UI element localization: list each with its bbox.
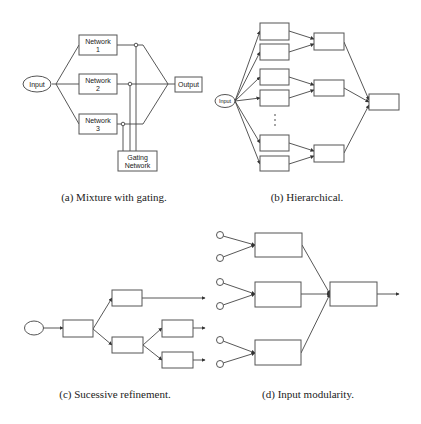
input-node-d3 — [217, 279, 224, 286]
edge-stage1-upper — [93, 298, 112, 329]
edge-leaf2-mid1 — [289, 44, 314, 52]
network-3-label: Network — [85, 117, 111, 124]
gate-multiplier-2 — [128, 82, 132, 86]
edge-network1-output — [117, 45, 168, 84]
gating-network-label-2: Network — [125, 162, 151, 169]
caption-b: (b) Hierarchical. — [271, 191, 344, 204]
input-node-c — [25, 321, 44, 335]
ellipsis-dot-3 — [274, 124, 276, 126]
edge-input-leaf-6 — [235, 101, 260, 164]
panel-d-input-modularity: (d) Input modularity. — [217, 232, 400, 402]
edge-in4-mod2 — [223, 294, 255, 305]
edge-in1-mod1 — [223, 236, 255, 245]
edge-input-network3 — [56, 84, 79, 124]
leaf-module-6 — [260, 156, 289, 171]
input-node-d6 — [217, 361, 224, 368]
mid-module-3 — [314, 145, 344, 162]
gate-multiplier-1 — [134, 43, 138, 47]
leaf-module-1 — [260, 23, 289, 40]
edge-mod1-combiner — [302, 245, 330, 294]
output-label: Output — [178, 81, 199, 89]
input-node-d5 — [217, 337, 224, 344]
mid-module-2 — [314, 80, 344, 96]
input-label: Input — [29, 81, 45, 89]
edge-mid2-top — [344, 88, 369, 102]
edge-input-network1 — [56, 45, 79, 84]
edge-leaf6-mid3 — [289, 156, 314, 164]
input-module-1 — [255, 233, 302, 257]
panel-b-input-edges — [235, 31, 260, 164]
caption-a: (a) Mixture with gating. — [61, 191, 167, 204]
stage-1-module — [63, 320, 93, 337]
input-module-3 — [255, 340, 301, 365]
edge-leaf4-mid2 — [289, 90, 314, 98]
network-1-number: 1 — [96, 46, 100, 53]
edge-in6-mod3 — [223, 353, 255, 363]
panel-b-hierarchical: Input (b) Hierarchical. — [215, 23, 399, 204]
network-3-number: 3 — [96, 125, 100, 132]
edge-in5-mod3 — [223, 341, 255, 353]
stage-2-upper-module — [112, 290, 142, 306]
caption-d: (d) Input modularity. — [262, 388, 354, 401]
network-2-number: 2 — [96, 85, 100, 92]
leaf-module-4 — [260, 90, 289, 106]
panel-c-successive-refinement: (c) Sucessive refinement. — [25, 290, 206, 401]
stage-2-lower-module — [112, 337, 143, 353]
panel-a-connections — [52, 43, 175, 151]
network-1-label: Network — [85, 38, 111, 45]
combiner-module — [330, 282, 377, 306]
edge-mod3-combiner — [301, 294, 330, 353]
edge-network3-output — [117, 84, 168, 124]
stage-3-upper-module — [162, 320, 193, 337]
leaf-module-2 — [260, 44, 289, 60]
edge-in3-mod2 — [223, 283, 255, 294]
edge-input-leaf-5 — [235, 101, 260, 143]
leaf-module-5 — [260, 135, 289, 151]
edge-input-leaf-2 — [235, 52, 260, 101]
mid-module-1 — [314, 33, 344, 50]
edge-input-leaf-1 — [235, 31, 260, 101]
modular-network-figure: Input Network 1 Network 2 Network 3 Outp… — [0, 0, 421, 424]
gating-network-label-1: Gating — [127, 154, 148, 162]
edge-lower-refine1 — [143, 328, 162, 345]
input-label-b: Input — [219, 98, 232, 104]
ellipsis-dot-1 — [274, 114, 276, 116]
input-node-d2 — [217, 255, 224, 262]
gate-multiplier-3 — [121, 122, 125, 126]
panel-a-mixture-with-gating: Input Network 1 Network 2 Network 3 Outp… — [23, 35, 202, 204]
edge-mid1-top — [344, 42, 369, 100]
network-2-label: Network — [85, 77, 111, 84]
edge-in2-mod1 — [223, 245, 255, 257]
panel-b-mid-edges — [289, 31, 369, 164]
input-node-d1 — [217, 232, 224, 239]
ellipsis-dots — [274, 114, 276, 126]
top-module — [369, 94, 399, 110]
edge-stage1-lower — [93, 329, 112, 345]
edge-input-leaf-4 — [235, 98, 260, 101]
input-module-2 — [255, 282, 301, 307]
edge-leaf3-mid2 — [289, 77, 314, 85]
edge-input-leaf-3 — [235, 77, 260, 101]
edge-lower-refine2 — [143, 345, 162, 360]
leaf-module-3 — [260, 69, 289, 85]
edge-mid3-top — [344, 105, 369, 153]
edge-leaf5-mid3 — [289, 143, 314, 151]
input-node-d4 — [217, 303, 224, 310]
ellipsis-dot-2 — [274, 119, 276, 121]
stage-3-lower-module — [162, 352, 193, 368]
edge-leaf1-mid1 — [289, 31, 314, 39]
caption-c: (c) Sucessive refinement. — [59, 388, 171, 401]
